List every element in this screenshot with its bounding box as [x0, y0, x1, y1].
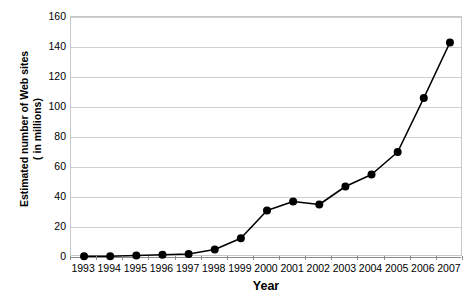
x-tick-14 [436, 256, 437, 260]
web-sites-line-chart: Estimated number of Web sites ( in milli… [0, 0, 473, 301]
data-point-2001 [289, 198, 297, 206]
x-tick-12 [384, 256, 385, 260]
y-tick-label-0: 0 [36, 251, 66, 262]
y-tick-label-120: 120 [36, 71, 66, 82]
y-tick-label-140: 140 [36, 41, 66, 52]
x-tick-13 [410, 256, 411, 260]
x-tick-1 [96, 256, 97, 260]
plot-area [70, 16, 462, 256]
data-point-2004 [368, 171, 376, 179]
x-tick-label-2007: 2007 [429, 262, 469, 274]
x-axis-ticks [70, 256, 462, 261]
y-tick-label-20: 20 [36, 221, 66, 232]
x-tick-10 [331, 256, 332, 260]
data-point-2006 [420, 94, 428, 102]
y-tick-label-100: 100 [36, 101, 66, 112]
x-tick-3 [148, 256, 149, 260]
data-series-layer [71, 17, 463, 257]
y-tick-label-160: 160 [36, 11, 66, 22]
data-point-1998 [211, 246, 219, 254]
x-tick-15 [462, 256, 463, 260]
y-tick-label-40: 40 [36, 191, 66, 202]
x-tick-5 [201, 256, 202, 260]
y-tick-label-80: 80 [36, 131, 66, 142]
x-axis-tick-labels: 1993199419951996199719981999200020012002… [70, 262, 462, 276]
x-tick-8 [279, 256, 280, 260]
x-tick-0 [70, 256, 71, 260]
data-point-2007 [446, 39, 454, 47]
y-tick-label-60: 60 [36, 161, 66, 172]
data-point-2002 [315, 201, 323, 209]
x-tick-2 [122, 256, 123, 260]
x-tick-6 [227, 256, 228, 260]
y-axis-title-line-1: Estimated number of Web sites [18, 51, 31, 207]
data-point-2000 [263, 207, 271, 215]
x-tick-11 [357, 256, 358, 260]
data-point-2005 [394, 148, 402, 156]
series-markers [80, 39, 454, 261]
data-point-1999 [237, 234, 245, 242]
x-axis-title: Year [70, 279, 462, 294]
x-tick-4 [175, 256, 176, 260]
data-point-2003 [341, 183, 349, 191]
x-tick-9 [305, 256, 306, 260]
y-axis-tick-labels: 020406080100120140160 [36, 0, 66, 301]
x-tick-7 [253, 256, 254, 260]
